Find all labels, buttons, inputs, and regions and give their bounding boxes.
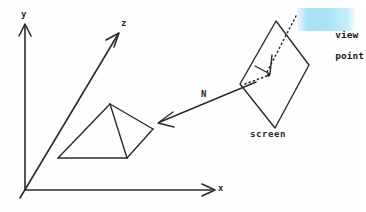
viewpoint-label-line2: point <box>335 50 364 61</box>
viewpoint-label-line1: view <box>335 29 358 40</box>
viewpoint-dot-leader <box>245 76 267 84</box>
normal-vector-label: N <box>201 89 206 99</box>
view-point-dot <box>267 73 270 76</box>
x-axis <box>25 184 215 196</box>
screen-label: screen <box>250 129 286 139</box>
normal-vector-line <box>160 82 256 122</box>
viewpoint-label: view point <box>299 8 366 84</box>
pyramid-edge-right <box>127 129 153 158</box>
viewpoint-leader <box>245 16 296 84</box>
x-axis-label: x <box>218 183 223 193</box>
viewpoint-leader-arrowhead <box>255 55 272 74</box>
z-axis-label: z <box>121 18 126 28</box>
y-axis-label: y <box>21 9 26 19</box>
z-axis <box>20 33 119 198</box>
z-axis-line <box>20 36 117 198</box>
normal-vector-arrow <box>158 82 256 127</box>
y-axis <box>19 24 31 190</box>
pyramid-edge-left <box>58 104 110 158</box>
